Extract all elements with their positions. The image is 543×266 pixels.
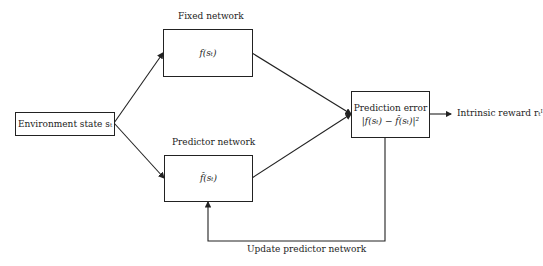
intrinsic-reward-label: Intrinsic reward rₜᴵ [457, 108, 543, 118]
edge-predictor-to-error [252, 114, 351, 178]
environment-state-node: Environment state sₜ [15, 112, 115, 136]
predictor-network-function: f̂(sₜ) [200, 172, 217, 184]
edge-env-to-fixed [114, 53, 163, 123]
edge-env-to-predictor [114, 123, 164, 178]
edge-fixed-to-error [252, 53, 351, 114]
environment-state-label: Environment state sₜ [18, 118, 112, 130]
fixed-network-title: Fixed network [178, 11, 244, 21]
fixed-network-function: f(sₜ) [199, 47, 216, 59]
update-predictor-label: Update predictor network [247, 244, 366, 254]
prediction-error-title: Prediction error [354, 102, 428, 114]
predictor-network-node: f̂(sₜ) [164, 155, 253, 202]
prediction-error-node: Prediction error |f(sₜ) − f̂(sₜ)|² [351, 91, 430, 138]
predictor-network-title: Predictor network [172, 137, 255, 147]
fixed-network-node: f(sₜ) [163, 29, 253, 77]
prediction-error-formula: |f(sₜ) − f̂(sₜ)|² [362, 115, 419, 127]
